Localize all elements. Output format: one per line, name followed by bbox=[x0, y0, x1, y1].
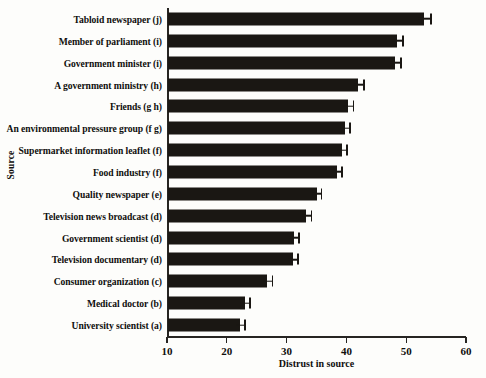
bar-row: Medical doctor (b) bbox=[167, 292, 466, 314]
error-bar-cap-left bbox=[287, 254, 289, 265]
error-bar bbox=[288, 232, 300, 243]
error-bar bbox=[336, 145, 348, 156]
error-bar-cap-right bbox=[363, 79, 365, 90]
bar bbox=[168, 297, 245, 310]
bar bbox=[168, 56, 395, 69]
error-bar-cap-left bbox=[311, 188, 313, 199]
error-bar-cap-right bbox=[349, 123, 351, 134]
bar-row: Tabloid newspaper (j) bbox=[167, 8, 466, 30]
error-bar bbox=[352, 79, 365, 90]
error-bar bbox=[261, 276, 273, 287]
x-tick-label-50: 50 bbox=[401, 345, 412, 357]
bar-row: Television news broadcast (d) bbox=[167, 205, 466, 227]
bar-category-label: Medical doctor (b) bbox=[87, 298, 162, 309]
error-bar-cap-left bbox=[352, 79, 354, 90]
error-bar bbox=[416, 13, 432, 24]
error-bar-cap-left bbox=[389, 57, 391, 68]
x-tick-label-40: 40 bbox=[341, 345, 352, 357]
error-bar-cap-left bbox=[416, 13, 418, 24]
bar-category-label: Quality newspaper (e) bbox=[73, 188, 162, 199]
error-bar-cap-right bbox=[346, 145, 348, 156]
bar-category-label: Television documentary (d) bbox=[52, 254, 162, 265]
x-tick-10 bbox=[166, 337, 167, 343]
bar-row: Friends (g h) bbox=[167, 95, 466, 117]
error-bar-cap-right bbox=[244, 320, 246, 331]
y-axis-label: Source bbox=[2, 0, 18, 330]
bar-category-label: Member of parliament (i) bbox=[59, 35, 162, 46]
error-bar-cap-left bbox=[288, 232, 290, 243]
x-axis-label-text: Distrust in source bbox=[279, 358, 354, 369]
error-bar bbox=[391, 35, 404, 46]
bar bbox=[168, 12, 424, 25]
bar-category-label: Supermarket information leaflet (f) bbox=[19, 145, 162, 156]
error-bar bbox=[331, 166, 343, 177]
error-bar-cap-right bbox=[402, 35, 404, 46]
error-bar bbox=[341, 101, 354, 112]
bar-category-label: A government ministry (h) bbox=[54, 79, 162, 90]
bar-row: A government ministry (h) bbox=[167, 74, 466, 96]
error-bar bbox=[234, 320, 246, 331]
error-bar bbox=[287, 254, 299, 265]
error-bar-cap-left bbox=[331, 166, 333, 177]
error-bar-cap-right bbox=[430, 13, 432, 24]
chart-figure: Source 102030405060 Tabloid newspaper (j… bbox=[0, 0, 486, 378]
x-axis-line bbox=[167, 336, 466, 338]
bar bbox=[168, 144, 342, 157]
bar bbox=[168, 253, 293, 266]
bar bbox=[168, 319, 240, 332]
x-axis-label: Distrust in source bbox=[167, 358, 466, 369]
error-bar-cap-left bbox=[234, 320, 236, 331]
error-bar-cap-right bbox=[272, 276, 274, 287]
x-tick-60 bbox=[465, 337, 466, 343]
bar bbox=[168, 275, 267, 288]
bar-category-label: Friends (g h) bbox=[110, 101, 162, 112]
bar bbox=[168, 122, 345, 135]
y-axis-label-text: Source bbox=[5, 151, 15, 180]
bar-category-label: Tabloid newspaper (j) bbox=[73, 13, 162, 24]
x-tick-50 bbox=[406, 337, 407, 343]
error-bar-cap-left bbox=[300, 210, 302, 221]
error-bar-cap-left bbox=[341, 101, 343, 112]
error-bar-cap-left bbox=[239, 298, 241, 309]
error-bar-cap-right bbox=[298, 232, 300, 243]
bar-row: Television documentary (d) bbox=[167, 249, 466, 271]
error-bar bbox=[311, 188, 323, 199]
bar-category-label: Consumer organization (c) bbox=[54, 276, 162, 287]
error-bar bbox=[339, 123, 351, 134]
x-tick-30 bbox=[286, 337, 287, 343]
bar-row: An environmental pressure group (f g) bbox=[167, 117, 466, 139]
bar bbox=[168, 187, 317, 200]
error-bar-cap-right bbox=[400, 57, 402, 68]
bar-row: Consumer organization (c) bbox=[167, 270, 466, 292]
error-bar-cap-left bbox=[339, 123, 341, 134]
error-bar-cap-left bbox=[391, 35, 393, 46]
bar-category-label: An environmental pressure group (f g) bbox=[7, 123, 162, 134]
bar bbox=[168, 34, 397, 47]
bar-row: Supermarket information leaflet (f) bbox=[167, 139, 466, 161]
bar-row: University scientist (a) bbox=[167, 314, 466, 336]
error-bar bbox=[239, 298, 251, 309]
bar-category-label: Government minister (i) bbox=[64, 57, 162, 68]
error-bar-cap-left bbox=[336, 145, 338, 156]
bar bbox=[168, 100, 348, 113]
x-tick-label-60: 60 bbox=[461, 345, 472, 357]
error-bar-cap-right bbox=[341, 166, 343, 177]
bar-row: Government scientist (d) bbox=[167, 227, 466, 249]
x-tick-20 bbox=[226, 337, 227, 343]
x-tick-label-20: 20 bbox=[221, 345, 232, 357]
error-bar-cap-right bbox=[311, 210, 313, 221]
error-bar-cap-right bbox=[297, 254, 299, 265]
bar bbox=[168, 78, 358, 91]
x-tick-40 bbox=[346, 337, 347, 343]
bar bbox=[168, 209, 306, 222]
error-bar-cap-right bbox=[321, 188, 323, 199]
error-bar bbox=[389, 57, 402, 68]
bar-row: Government minister (i) bbox=[167, 52, 466, 74]
x-tick-label-30: 30 bbox=[281, 345, 292, 357]
bar-category-label: University scientist (a) bbox=[72, 320, 162, 331]
bar-category-label: Television news broadcast (d) bbox=[43, 210, 162, 221]
bar-category-label: Government scientist (d) bbox=[62, 232, 162, 243]
bar bbox=[168, 165, 337, 178]
bar-row: Food industry (f) bbox=[167, 161, 466, 183]
x-tick-label-10: 10 bbox=[162, 345, 173, 357]
